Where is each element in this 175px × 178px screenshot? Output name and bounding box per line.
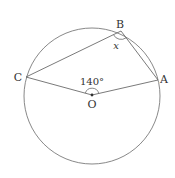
angle-b-label: x (113, 40, 119, 51)
label-b: B (116, 18, 124, 31)
label-o: O (87, 98, 96, 111)
label-c: C (14, 71, 22, 84)
circle-diagram: B C A O 140° x (0, 0, 175, 178)
angle-arc-center (85, 88, 99, 93)
chord-cb (26, 31, 121, 77)
angle-center-label: 140° (80, 76, 104, 87)
chord-ba (121, 31, 158, 80)
center-point (91, 94, 94, 97)
label-a: A (159, 73, 169, 86)
